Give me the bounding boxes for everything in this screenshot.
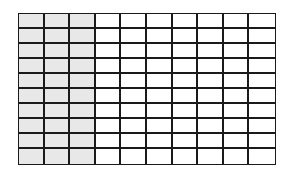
grid-cell-shaded bbox=[45, 104, 71, 119]
grid-cell bbox=[249, 89, 275, 104]
grid-cell bbox=[173, 14, 199, 29]
grid-cell bbox=[224, 14, 250, 29]
grid-cell bbox=[121, 59, 147, 74]
grid-cell-shaded bbox=[19, 134, 45, 149]
grid-cell bbox=[198, 14, 224, 29]
grid-cell bbox=[173, 74, 199, 89]
grid-cell-shaded bbox=[70, 119, 96, 134]
grid-cell-shaded bbox=[45, 74, 71, 89]
grid-cell-shaded bbox=[19, 119, 45, 134]
grid-cell bbox=[147, 29, 173, 44]
grid-cell bbox=[147, 89, 173, 104]
grid-cell bbox=[173, 119, 199, 134]
grid-cell-shaded bbox=[19, 59, 45, 74]
grid-cell-shaded bbox=[19, 149, 45, 164]
grid-cell bbox=[121, 134, 147, 149]
grid-cell bbox=[224, 74, 250, 89]
grid-cell bbox=[121, 89, 147, 104]
hundred-grid bbox=[18, 13, 276, 165]
grid-cell bbox=[198, 119, 224, 134]
grid-cell bbox=[147, 104, 173, 119]
grid-cell bbox=[198, 89, 224, 104]
grid-cell-shaded bbox=[45, 119, 71, 134]
grid-cell-shaded bbox=[45, 29, 71, 44]
grid-cell bbox=[198, 134, 224, 149]
grid-cell bbox=[147, 44, 173, 59]
grid-cell bbox=[96, 149, 122, 164]
grid-cell bbox=[224, 29, 250, 44]
grid-cell bbox=[121, 44, 147, 59]
grid-cell bbox=[173, 29, 199, 44]
grid-cell-shaded bbox=[70, 89, 96, 104]
grid-cell-shaded bbox=[45, 134, 71, 149]
grid-cell-shaded bbox=[70, 29, 96, 44]
grid-cell bbox=[121, 74, 147, 89]
grid-cell-shaded bbox=[45, 59, 71, 74]
grid-cell-shaded bbox=[19, 14, 45, 29]
grid-cell bbox=[96, 104, 122, 119]
grid-cell bbox=[198, 149, 224, 164]
grid-cell bbox=[147, 134, 173, 149]
grid-cell bbox=[198, 74, 224, 89]
grid-cell-shaded bbox=[70, 59, 96, 74]
grid-cell-shaded bbox=[70, 74, 96, 89]
grid-cell bbox=[249, 74, 275, 89]
grid-cell bbox=[96, 119, 122, 134]
grid-cell bbox=[224, 149, 250, 164]
grid-cell-shaded bbox=[45, 149, 71, 164]
grid-cell bbox=[249, 104, 275, 119]
grid-cell bbox=[96, 14, 122, 29]
grid-cell bbox=[96, 89, 122, 104]
grid-cell bbox=[224, 59, 250, 74]
grid-cell bbox=[198, 59, 224, 74]
grid-cell bbox=[249, 119, 275, 134]
grid-cell bbox=[147, 14, 173, 29]
grid-cell bbox=[147, 74, 173, 89]
grid-cell-shaded bbox=[45, 44, 71, 59]
grid-cell-shaded bbox=[70, 44, 96, 59]
grid-cell bbox=[96, 59, 122, 74]
grid-cell bbox=[249, 14, 275, 29]
grid-cell bbox=[249, 134, 275, 149]
grid-cell bbox=[249, 59, 275, 74]
grid-cell-shaded bbox=[19, 104, 45, 119]
grid-cell-shaded bbox=[45, 89, 71, 104]
grid-cell-shaded bbox=[70, 104, 96, 119]
grid-cell bbox=[224, 44, 250, 59]
grid-cell bbox=[173, 89, 199, 104]
grid-cell bbox=[249, 29, 275, 44]
grid-cell-shaded bbox=[70, 149, 96, 164]
grid-cell bbox=[121, 104, 147, 119]
grid-cell bbox=[198, 29, 224, 44]
grid-cell bbox=[224, 119, 250, 134]
grid-cell bbox=[147, 149, 173, 164]
grid-cell bbox=[121, 119, 147, 134]
grid-cell bbox=[96, 134, 122, 149]
grid-cell bbox=[198, 44, 224, 59]
grid-cell bbox=[173, 59, 199, 74]
grid-cell-shaded bbox=[19, 29, 45, 44]
grid-cell bbox=[198, 104, 224, 119]
grid-cell bbox=[121, 29, 147, 44]
grid-cell bbox=[224, 104, 250, 119]
grid-cell bbox=[173, 44, 199, 59]
grid-cell bbox=[147, 59, 173, 74]
grid-cell bbox=[173, 104, 199, 119]
grid-cell bbox=[121, 14, 147, 29]
grid-cell bbox=[147, 119, 173, 134]
grid-cell bbox=[96, 74, 122, 89]
grid-cell bbox=[96, 29, 122, 44]
grid-cell bbox=[224, 89, 250, 104]
grid-cell bbox=[121, 149, 147, 164]
grid-cell bbox=[173, 134, 199, 149]
grid-cell bbox=[96, 44, 122, 59]
grid-cell-shaded bbox=[19, 44, 45, 59]
grid-cell-shaded bbox=[45, 14, 71, 29]
grid-cell bbox=[173, 149, 199, 164]
grid-cell-shaded bbox=[19, 89, 45, 104]
grid-cell-shaded bbox=[19, 74, 45, 89]
grid-cell bbox=[249, 44, 275, 59]
grid-cell bbox=[224, 134, 250, 149]
grid-cell-shaded bbox=[70, 134, 96, 149]
grid-cell bbox=[249, 149, 275, 164]
